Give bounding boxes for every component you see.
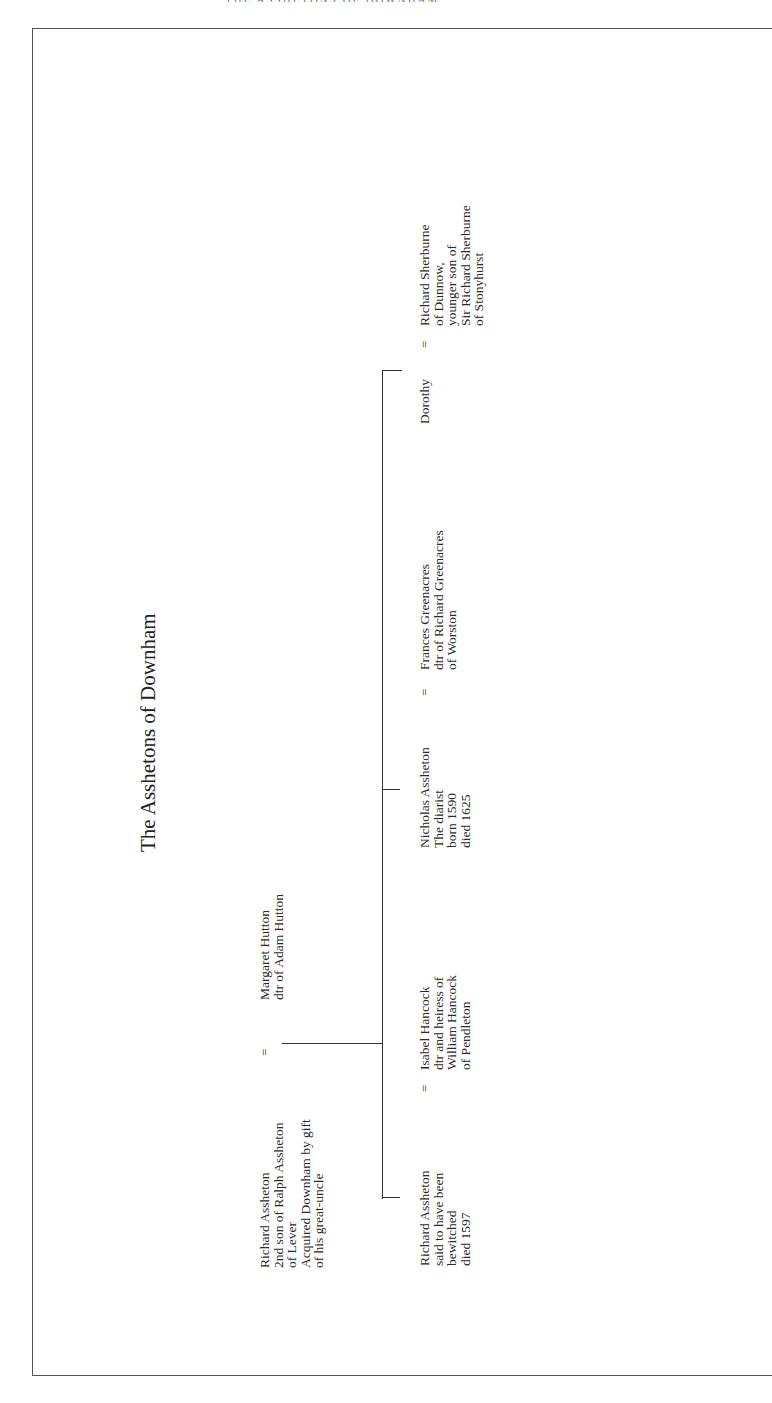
person-line: Richard Assheton xyxy=(258,1119,272,1268)
person-line: Margaret Hutton xyxy=(258,894,272,1000)
person-line: of Stonyhurst xyxy=(472,205,486,326)
person-line: William Hancock xyxy=(445,975,459,1070)
person-line: of Lever xyxy=(285,1119,299,1268)
sibling-bar xyxy=(382,370,383,1199)
person-richard-assheton-junior: Richard Assheton said to have been bewit… xyxy=(418,1170,472,1266)
person-dorothy: Dorothy xyxy=(418,379,432,424)
person-line: Richard Assheton xyxy=(418,1170,432,1266)
child-tick-richard xyxy=(382,1197,400,1198)
person-line: Sir Richard Sherburne xyxy=(459,205,473,326)
tree-title: The Asshetons of Downham xyxy=(136,613,160,852)
person-line: younger son of xyxy=(445,205,459,326)
person-line: Nicholas Assheton xyxy=(418,747,432,848)
person-line: dtr and heiress of xyxy=(432,975,446,1070)
marriage-symbol: = xyxy=(418,341,431,348)
person-line: of Worston xyxy=(445,530,459,670)
person-line: Dorothy xyxy=(418,379,432,424)
person-line: of Dunnow, xyxy=(432,205,446,326)
person-line: died 1625 xyxy=(459,747,473,848)
person-line: of his great-uncle xyxy=(312,1119,326,1268)
person-frances-greenacres: Frances Greenacres dtr of Richard Greena… xyxy=(418,530,459,670)
marriage-symbol: = xyxy=(418,1085,431,1092)
person-line: Isabel Hancock xyxy=(418,975,432,1070)
marriage-symbol: = xyxy=(418,689,431,696)
person-line: bewitched xyxy=(445,1170,459,1266)
running-header-fragment: THE ASSHETONS OF DOWNHAM xyxy=(225,0,625,2)
person-line: said to have been xyxy=(432,1170,446,1266)
person-line: died 1597 xyxy=(459,1170,473,1266)
person-margaret-hutton: Margaret Hutton dtr of Adam Hutton xyxy=(258,894,285,1000)
person-line: The diarist xyxy=(432,747,446,848)
person-nicholas-assheton: Nicholas Assheton The diarist born 1590 … xyxy=(418,747,472,848)
person-line: dtr of Adam Hutton xyxy=(272,894,286,1000)
child-tick-dorothy xyxy=(382,370,402,371)
person-line: Acquired Downham by gift xyxy=(299,1119,313,1268)
person-richard-sherburne: Richard Sherburne of Dunnow, younger son… xyxy=(418,205,486,326)
child-tick-nicholas xyxy=(382,789,400,790)
person-line: of Pendleton xyxy=(459,975,473,1070)
person-isabel-hancock: Isabel Hancock dtr and heiress of Willia… xyxy=(418,975,472,1070)
person-line: Frances Greenacres xyxy=(418,530,432,670)
person-line: dtr of Richard Greenacres xyxy=(432,530,446,670)
person-richard-assheton-senior: Richard Assheton 2nd son of Ralph Asshet… xyxy=(258,1119,326,1268)
marriage-symbol: = xyxy=(258,1049,271,1056)
descent-line xyxy=(282,1043,383,1044)
person-line: 2nd son of Ralph Assheton xyxy=(272,1119,286,1268)
person-line: Richard Sherburne xyxy=(418,205,432,326)
person-line: born 1590 xyxy=(445,747,459,848)
